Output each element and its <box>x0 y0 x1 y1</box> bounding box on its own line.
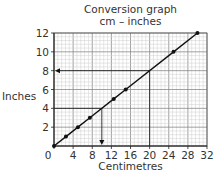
svg-text:8: 8 <box>89 149 96 161</box>
svg-text:10: 10 <box>36 46 49 58</box>
svg-text:12: 12 <box>36 27 49 39</box>
conversion-chart: 04812162024283224681012 <box>0 0 223 178</box>
svg-text:4: 4 <box>70 149 77 161</box>
svg-text:12: 12 <box>105 149 118 161</box>
svg-text:20: 20 <box>143 149 156 161</box>
svg-text:24: 24 <box>162 149 176 161</box>
svg-text:32: 32 <box>200 149 213 161</box>
tick-labels: 04812162024283224681012 <box>36 27 214 161</box>
svg-text:2: 2 <box>42 121 49 133</box>
svg-text:6: 6 <box>42 84 49 96</box>
svg-text:0: 0 <box>45 149 52 161</box>
svg-text:28: 28 <box>181 149 194 161</box>
axes <box>51 33 207 149</box>
grid <box>54 33 207 146</box>
svg-text:8: 8 <box>42 65 49 77</box>
svg-text:4: 4 <box>42 102 49 114</box>
svg-text:16: 16 <box>124 149 138 161</box>
